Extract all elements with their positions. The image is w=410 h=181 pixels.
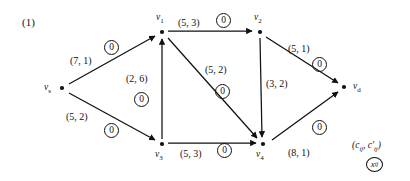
node-dot-v2	[258, 30, 262, 34]
node-label-v4: v4	[256, 149, 264, 162]
node-label-vs: vs	[44, 82, 51, 95]
edge-capacity-v1-v2: (5, 3)	[178, 17, 200, 28]
edge-flow-v3-v4: 0	[217, 143, 232, 158]
legend-capacity-notation: (cij, c′ij)	[352, 140, 381, 152]
node-label-vd-sub: d	[357, 86, 361, 94]
legend-capacity-sub-2: ij	[374, 145, 378, 152]
node-label-v3-sub: 3	[159, 154, 163, 162]
edge-capacity-v2-v4: (3, 2)	[266, 78, 288, 89]
legend-flow-sub: ij	[375, 161, 379, 168]
legend-flow-notation: xij	[366, 157, 383, 172]
edge-capacity-v3-v1: (2, 6)	[126, 73, 148, 84]
edge-capacity-vs-v3: (5, 2)	[66, 111, 88, 122]
edge-capacity-v2-vd: (5, 1)	[288, 43, 310, 54]
node-label-v3: v3	[155, 149, 163, 162]
node-label-v1-sub: 1	[160, 17, 164, 25]
edge-capacity-vs-v1: (7, 1)	[70, 55, 92, 66]
node-label-v2: v2	[254, 12, 262, 25]
edge-flow-v2-vd: 0	[312, 57, 327, 72]
figure-container: (1) vs v1 v2 v3 v4 v	[0, 0, 410, 181]
node-dot-v3	[160, 142, 164, 146]
edge-flow-v3-v1: 0	[134, 92, 149, 107]
node-label-vs-sub: s	[48, 87, 51, 95]
edge-capacity-v1-v4: (5, 2)	[205, 64, 227, 75]
edge-capacity-v3-v4: (5, 3)	[180, 148, 202, 159]
edge-flow-vs-v1: 0	[104, 40, 119, 55]
edge-v4-vd	[272, 92, 338, 140]
node-label-vd: vd	[353, 81, 361, 94]
node-dot-vs	[60, 86, 64, 90]
legend-capacity-sub-1: ij	[359, 145, 363, 152]
edge-v1-v4	[168, 38, 257, 138]
edge-flow-v1-v2: 0	[216, 13, 231, 28]
edge-capacity-v4-vd: (8, 1)	[288, 147, 310, 158]
node-dot-v1	[160, 30, 164, 34]
node-dot-v4	[261, 142, 265, 146]
edge-flow-vs-v3: 0	[104, 123, 119, 138]
network-graph-canvas	[0, 0, 410, 181]
node-label-v1: v1	[156, 12, 164, 25]
node-label-v4-sub: 4	[260, 154, 264, 162]
node-dot-vd	[342, 85, 346, 89]
edge-flow-v1-v4: 0	[215, 84, 230, 99]
node-label-v2-sub: 2	[258, 17, 262, 25]
edge-flow-v4-vd: 0	[312, 120, 327, 135]
edge-v2-v4	[260, 38, 262, 137]
